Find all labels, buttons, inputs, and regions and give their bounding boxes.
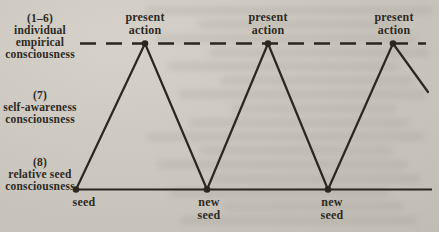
label-present-action-3: present action [349, 11, 439, 37]
peak-dot-2 [265, 40, 272, 47]
label-line: (8) [0, 156, 85, 168]
label-present-action-1: present action [100, 11, 190, 37]
label-new-seed-1: new seed [164, 196, 254, 221]
label-line: empirical [0, 36, 85, 48]
label-line: self-awareness [0, 101, 85, 113]
label-line: consciousness [0, 180, 85, 192]
book-page: (1–6) individual empirical consciousness… [0, 0, 439, 232]
peak-dot-1 [142, 40, 149, 47]
label-line: action [100, 24, 190, 37]
label-line: (1–6) [0, 12, 85, 24]
label-line: new [164, 196, 254, 209]
consciousness-cycle-zigzag [76, 44, 428, 190]
label-line: action [349, 24, 439, 37]
label-line: consciousness [0, 113, 85, 125]
label-new-seed-2: new seed [287, 196, 377, 221]
label-line: (7) [0, 89, 85, 101]
seed-dot-2 [204, 186, 211, 193]
label-line: consciousness [0, 48, 85, 60]
label-line: new [287, 196, 377, 209]
label-line: individual [0, 24, 85, 36]
label-line: action [223, 24, 313, 37]
label-line: seed [287, 209, 377, 222]
label-line: seed [164, 209, 254, 222]
label-individual-empirical-consciousness: (1–6) individual empirical consciousness [0, 12, 85, 60]
label-seed: seed [39, 196, 129, 209]
label-line: seed [39, 196, 129, 209]
label-line: relative seed [0, 168, 85, 180]
peak-dot-3 [390, 40, 397, 47]
label-relative-seed-consciousness: (8) relative seed consciousness [0, 156, 85, 192]
label-self-awareness-consciousness: (7) self-awareness consciousness [0, 89, 85, 125]
label-present-action-2: present action [223, 11, 313, 37]
seed-dot-3 [325, 186, 332, 193]
